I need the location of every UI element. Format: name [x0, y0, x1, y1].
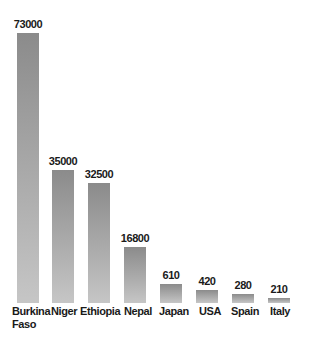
- bar-rect[interactable]: [17, 33, 39, 303]
- bar-chart: 73000 35000 32500 16800 610 420: [0, 0, 309, 355]
- bar-value-label: 16800: [121, 232, 150, 244]
- category-label-italy: Italy: [270, 305, 290, 318]
- bar-rect[interactable]: [160, 284, 182, 303]
- bar-rect[interactable]: [52, 170, 74, 303]
- category-label-usa: USA: [199, 305, 221, 318]
- category-label-burkina-faso: Burkina Faso: [12, 305, 50, 330]
- bar-value-label: 280: [234, 279, 251, 291]
- category-label-niger: Niger: [51, 305, 77, 318]
- bar-rect[interactable]: [88, 183, 110, 303]
- bar-rect[interactable]: [268, 298, 290, 303]
- category-label-ethiopia: Ethiopia: [80, 305, 120, 318]
- bar-value-label: 210: [270, 283, 287, 295]
- bar-value-label: 35000: [49, 155, 78, 167]
- bar-value-label: 420: [198, 275, 215, 287]
- bar-value-label: 32500: [85, 168, 114, 180]
- bar-rect[interactable]: [232, 294, 254, 303]
- bar-value-label: 610: [162, 269, 179, 281]
- category-label-spain: Spain: [231, 305, 259, 318]
- bar-rect[interactable]: [196, 290, 218, 303]
- category-label-japan: Japan: [159, 305, 189, 318]
- bar-rect[interactable]: [124, 247, 146, 303]
- plot-area: 73000 35000 32500 16800 610 420: [0, 0, 309, 355]
- bar-value-label: 73000: [14, 18, 43, 30]
- category-label-nepal: Nepal: [124, 305, 152, 318]
